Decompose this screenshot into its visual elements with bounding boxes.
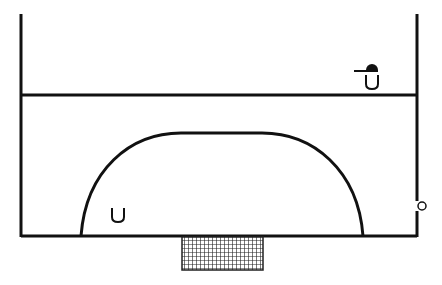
court-lines (21, 14, 417, 237)
player-with-cap-icon[interactable] (354, 64, 378, 89)
ball-icon[interactable] (418, 202, 426, 210)
game-court (0, 0, 442, 285)
player-icon[interactable] (112, 208, 124, 222)
basket-net (182, 237, 263, 270)
